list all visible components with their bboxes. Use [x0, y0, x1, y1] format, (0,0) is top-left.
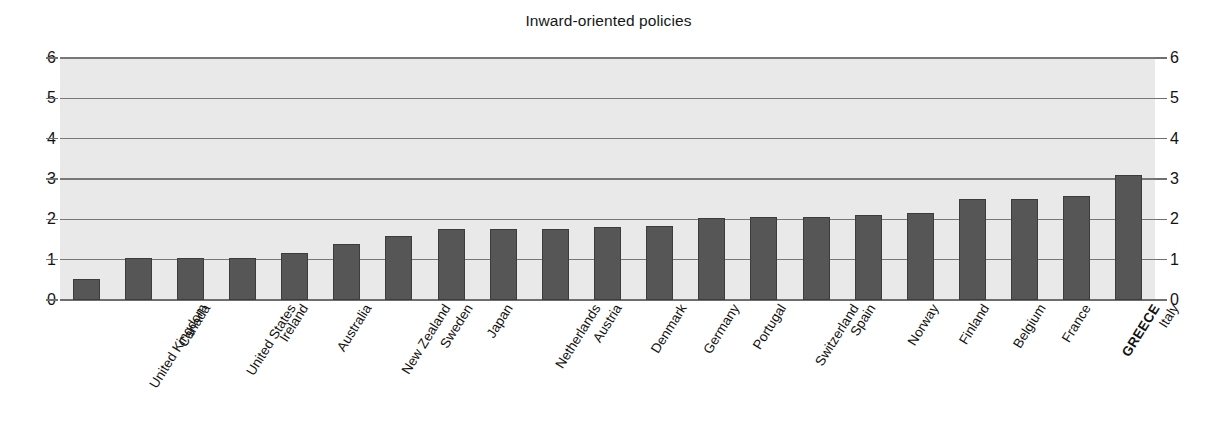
y-tick-label-right-1: 1 [1170, 252, 1210, 268]
bar [855, 215, 882, 300]
bar [750, 217, 777, 300]
y-tick-label-right-3: 3 [1170, 171, 1210, 187]
bar [490, 229, 517, 300]
y-tick-mark-right-0 [1155, 299, 1167, 301]
bar [229, 258, 256, 300]
plot-area [60, 58, 1155, 300]
x-axis-label: Norway [905, 302, 941, 348]
y-tick-label-right-6: 6 [1170, 50, 1210, 66]
y-tick-mark-left-3 [46, 178, 58, 180]
x-axis-label: France [1060, 302, 1094, 345]
y-tick-mark-right-5 [1155, 98, 1167, 100]
bar [385, 236, 412, 300]
bar [803, 217, 830, 300]
x-axis-label: Belgium [1011, 302, 1048, 351]
bar [646, 226, 673, 300]
bar [125, 258, 152, 300]
x-axis-category-labels: United KingdomCanadaUnited StatesIreland… [60, 302, 1155, 429]
bar [698, 218, 725, 300]
x-axis-label: Australia [335, 302, 374, 354]
bar [333, 244, 360, 300]
bar [1115, 175, 1142, 300]
bar [281, 253, 308, 300]
y-tick-mark-left-2 [46, 219, 58, 221]
y-tick-mark-left-5 [46, 98, 58, 100]
y-tick-mark-right-2 [1155, 219, 1167, 221]
bar [959, 199, 986, 300]
x-axis-label: Italy [1156, 302, 1181, 330]
chart-title: Inward-oriented policies [0, 12, 1217, 30]
bar [1063, 196, 1090, 300]
bar [594, 227, 621, 300]
bar [542, 229, 569, 300]
x-axis-label: GREECE [1120, 302, 1163, 359]
x-axis-label: Finland [957, 302, 992, 347]
y-tick-mark-left-1 [46, 259, 58, 261]
x-axis-label: Denmark [649, 302, 689, 356]
y-tick-mark-left-4 [46, 138, 58, 140]
y-tick-label-right-5: 5 [1170, 90, 1210, 106]
x-axis-label: Portugal [751, 302, 789, 352]
bar [1011, 199, 1038, 300]
y-tick-mark-right-1 [1155, 259, 1167, 261]
bar [177, 258, 204, 300]
x-axis-label: Germany [701, 302, 742, 356]
y-tick-label-right-2: 2 [1170, 211, 1210, 227]
y-tick-mark-left-6 [46, 57, 58, 59]
x-axis-label: Japan [484, 302, 515, 340]
bar [438, 229, 465, 300]
bar [73, 279, 100, 300]
chart-figure: Inward-oriented policies 0123456 0123456… [0, 0, 1217, 429]
bar-series [60, 58, 1155, 300]
bar [907, 213, 934, 300]
y-tick-mark-right-4 [1155, 138, 1167, 140]
y-tick-mark-left-0 [46, 299, 58, 301]
y-tick-mark-right-6 [1155, 57, 1167, 59]
y-tick-label-right-4: 4 [1170, 131, 1210, 147]
y-tick-mark-right-3 [1155, 178, 1167, 180]
